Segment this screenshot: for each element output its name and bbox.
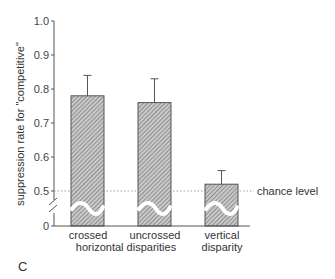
label-vertical: vertical (205, 229, 240, 241)
label-uncrossed: uncrossed (130, 229, 181, 241)
y-axis-label: suppression rate for "competitive" (14, 42, 26, 206)
y-tick-label: 0.8 (34, 83, 49, 95)
bar-2 (138, 79, 171, 226)
bar-1 (71, 75, 104, 226)
bar-chart: suppression rate for "competitive" 00.50… (0, 0, 335, 279)
y-tick-label: 0.5 (34, 185, 49, 197)
bar-3 (205, 171, 238, 226)
y-tick-label: 0 (43, 220, 49, 232)
label-disparity: disparity (202, 241, 243, 253)
y-tick-label: 0.6 (34, 151, 49, 163)
panel-label: C (18, 259, 27, 274)
bars (71, 75, 238, 226)
y-tick-label: 0.7 (34, 117, 49, 129)
label-crossed: crossed (69, 229, 108, 241)
y-axis: 00.50.60.70.80.91.0 (34, 15, 57, 232)
y-tick-label: 0.9 (34, 49, 49, 61)
label-horizontal-disparities: horizontal disparities (76, 241, 177, 253)
chance-level-label: chance level (257, 185, 318, 197)
y-tick-label: 1.0 (34, 15, 49, 27)
